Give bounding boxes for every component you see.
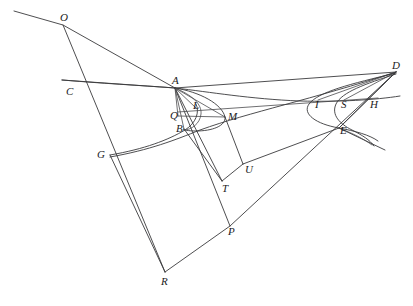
straight-segments (14, 11, 396, 272)
point-label-t: T (222, 183, 228, 194)
point-label-r: R (161, 276, 168, 287)
point-label-s: S (341, 99, 347, 110)
point-label-g: G (97, 149, 105, 160)
line-B-to-T (184, 129, 222, 181)
point-label-u: U (245, 164, 253, 175)
line-M-to-U (225, 117, 243, 164)
point-label-c: C (66, 86, 73, 97)
point-label-h: H (370, 99, 378, 110)
figure-canvas (0, 0, 413, 306)
line-G-to-R (110, 155, 165, 272)
line-O-to-R (63, 25, 165, 272)
parabola-I-E-open-left (307, 73, 396, 141)
geometry-figure: OCALQBMGTUPRISHED (0, 0, 413, 306)
point-label-q: Q (170, 110, 178, 121)
ray-through-O-upper-left (14, 11, 175, 88)
point-label-a: A (172, 75, 179, 86)
line-Q-to-M (178, 116, 225, 117)
point-label-i: I (315, 99, 319, 110)
line-T-to-U (222, 164, 243, 181)
point-label-m: M (228, 111, 237, 122)
point-label-p: P (228, 226, 235, 237)
point-label-e: E (340, 125, 347, 136)
point-label-o: O (60, 12, 68, 23)
point-label-b: B (176, 123, 183, 134)
point-label-l: L (193, 100, 199, 111)
line-U-to-E-extended (243, 72, 396, 164)
point-label-d: D (392, 60, 400, 71)
